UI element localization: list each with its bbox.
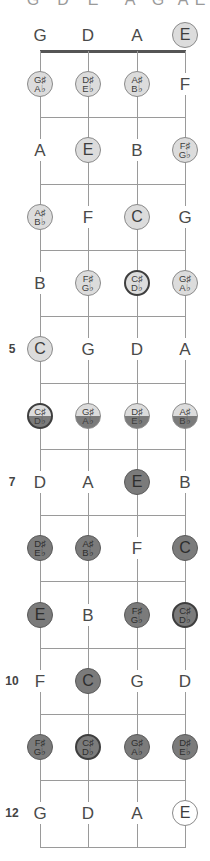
note-name: A bbox=[179, 341, 190, 358]
note-name: E bbox=[180, 805, 191, 821]
note-label: G bbox=[27, 24, 53, 46]
note-dot: F♯G♭ bbox=[124, 602, 150, 628]
note-label: G bbox=[27, 802, 53, 824]
note-label: D bbox=[75, 24, 101, 46]
note-label: A bbox=[124, 24, 150, 46]
note-label: G bbox=[75, 338, 101, 360]
note-label: F bbox=[124, 537, 150, 559]
note-dot: C bbox=[75, 668, 101, 694]
note-dot: D♯E♭ bbox=[172, 734, 198, 760]
nut bbox=[40, 50, 186, 53]
note-label: A bbox=[172, 338, 198, 360]
note-label: D bbox=[124, 338, 150, 360]
note-label: F bbox=[27, 670, 53, 692]
note-dot: D♯E♭ bbox=[124, 403, 150, 429]
note-label: F bbox=[172, 73, 198, 95]
note-name: B bbox=[82, 607, 93, 624]
note-dot: E bbox=[172, 800, 198, 826]
note-flat-name: B♭ bbox=[131, 84, 142, 93]
note-name: D bbox=[82, 27, 94, 44]
note-name: E bbox=[180, 27, 191, 43]
note-dot: C bbox=[172, 535, 198, 561]
fret-line-2 bbox=[40, 184, 186, 185]
note-dot: C♯D♭ bbox=[172, 602, 198, 628]
note-name: B bbox=[34, 275, 45, 292]
note-flat-name: E♭ bbox=[82, 84, 93, 93]
note-dot: A♯B♭ bbox=[27, 204, 53, 230]
note-name: F bbox=[35, 673, 45, 690]
fret-line-5 bbox=[40, 383, 186, 384]
fret-number-label: 12 bbox=[5, 806, 18, 820]
note-label: F bbox=[75, 206, 101, 228]
fret-line-4 bbox=[40, 316, 186, 317]
fretboard-diagram: GDEAGAE GDAEG♯A♭D♯E♭A♯B♭FAEBF♯G♭A♯B♭FCGB… bbox=[0, 0, 210, 861]
note-label: B bbox=[75, 604, 101, 626]
note-flat-name: E♭ bbox=[179, 747, 190, 756]
note-label: G bbox=[124, 670, 150, 692]
cutoff-letter: A bbox=[178, 0, 189, 9]
note-name: E bbox=[132, 474, 143, 490]
note-flat-name: B♭ bbox=[179, 416, 190, 425]
note-flat-name: A♭ bbox=[131, 747, 142, 756]
note-name: F bbox=[83, 209, 93, 226]
note-dot: E bbox=[75, 137, 101, 163]
note-name: D bbox=[34, 474, 46, 491]
fret-line-7 bbox=[40, 515, 186, 516]
note-name: B bbox=[131, 142, 142, 159]
note-flat-name: B♭ bbox=[82, 548, 93, 557]
note-dot: C bbox=[27, 336, 53, 362]
note-label: B bbox=[27, 272, 53, 294]
note-flat-name: A♭ bbox=[34, 84, 45, 93]
note-label: D bbox=[27, 471, 53, 493]
note-name: A bbox=[131, 27, 142, 44]
note-label: B bbox=[124, 139, 150, 161]
note-dot: G♯A♭ bbox=[124, 734, 150, 760]
note-dot: D♯E♭ bbox=[75, 71, 101, 97]
note-flat-name: D♭ bbox=[179, 615, 191, 624]
fret-number-label: 7 bbox=[9, 475, 16, 489]
fret-number-label: 10 bbox=[5, 674, 18, 688]
cutoff-letter: E bbox=[195, 0, 206, 9]
fret-line-6 bbox=[40, 449, 186, 450]
note-flat-name: A♭ bbox=[179, 283, 190, 292]
cutoff-letter: D bbox=[57, 0, 69, 9]
note-name: C bbox=[82, 673, 94, 689]
note-name: G bbox=[130, 673, 143, 690]
note-flat-name: B♭ bbox=[34, 217, 45, 226]
note-dot: C♯D♭ bbox=[27, 403, 53, 429]
cutoff-letter: A bbox=[125, 0, 136, 9]
note-dot: E bbox=[27, 602, 53, 628]
note-dot: C♯D♭ bbox=[75, 734, 101, 760]
note-dot: A♯B♭ bbox=[124, 71, 150, 97]
note-dot: F♯G♭ bbox=[75, 270, 101, 296]
note-flat-name: D♭ bbox=[34, 416, 46, 425]
note-flat-name: A♭ bbox=[82, 416, 93, 425]
note-name: F bbox=[132, 540, 142, 557]
note-flat-name: G♭ bbox=[131, 615, 143, 624]
cutoff-letter: G bbox=[27, 0, 39, 9]
note-flat-name: G♭ bbox=[34, 747, 46, 756]
note-dot: C bbox=[124, 204, 150, 230]
note-flat-name: D♭ bbox=[131, 283, 143, 292]
note-name: G bbox=[81, 341, 94, 358]
note-label: A bbox=[124, 802, 150, 824]
note-name: C bbox=[131, 209, 143, 225]
note-flat-name: D♭ bbox=[82, 747, 94, 756]
cutoff-letter: E bbox=[88, 0, 99, 9]
note-name: D bbox=[82, 805, 94, 822]
note-dot: E bbox=[172, 22, 198, 48]
note-name: G bbox=[33, 805, 46, 822]
note-label: A bbox=[75, 471, 101, 493]
note-name: A bbox=[34, 142, 45, 159]
note-dot: A♯B♭ bbox=[75, 535, 101, 561]
note-label: D bbox=[172, 670, 198, 692]
note-name: B bbox=[179, 474, 190, 491]
note-name: A bbox=[131, 805, 142, 822]
note-name: G bbox=[33, 27, 46, 44]
note-dot: D♯E♭ bbox=[27, 535, 53, 561]
note-label: A bbox=[27, 139, 53, 161]
note-dot: G♯A♭ bbox=[75, 403, 101, 429]
fret-line-1 bbox=[40, 117, 186, 118]
note-flat-name: E♭ bbox=[131, 416, 142, 425]
fret-line-12 bbox=[40, 847, 186, 848]
